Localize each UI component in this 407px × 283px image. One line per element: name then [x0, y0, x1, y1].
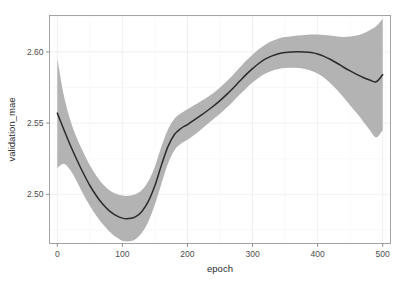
- x-tick-label: 0: [55, 249, 60, 259]
- x-tick-label: 100: [115, 249, 129, 259]
- x-tick-label: 200: [180, 249, 194, 259]
- y-axis-title: validation_mae: [6, 98, 17, 162]
- chart-figure: 0100200300400500 2.502.552.60 epoch vali…: [0, 0, 407, 283]
- y-tick-label: 2.50: [27, 189, 44, 199]
- y-tick-label: 2.55: [27, 118, 44, 128]
- x-tick-label: 300: [245, 249, 259, 259]
- x-tick-label: 500: [376, 249, 390, 259]
- validation-mae-plot: 0100200300400500 2.502.552.60 epoch vali…: [0, 0, 407, 283]
- x-tick-label: 400: [311, 249, 325, 259]
- y-tick-label: 2.60: [27, 47, 44, 57]
- x-axis-title: epoch: [207, 263, 233, 274]
